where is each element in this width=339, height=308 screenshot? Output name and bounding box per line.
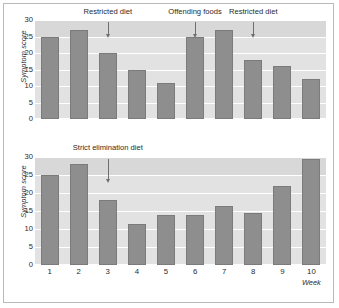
y-tick-label: 0 [29,261,33,269]
bar [244,213,262,265]
bar [244,60,262,119]
x-tick-label: 7 [222,267,226,276]
y-tick-label: 15 [25,66,33,74]
bar [302,159,320,265]
x-tick-label: 2 [76,267,80,276]
bar [157,83,175,119]
x-axis-label: Week [302,278,321,287]
annotation-arrow-icon [253,22,254,34]
y-tick-label: 30 [25,153,33,161]
annotation-label: Restricted diet [83,8,132,16]
bar [273,186,291,265]
annotation-arrow-icon [195,22,196,34]
bar [70,164,88,265]
bar [70,30,88,119]
annotation-arrow-icon [108,22,109,34]
y-tick-label: 0 [29,115,33,123]
bar [99,200,117,265]
plot-area-top [35,20,326,119]
gridline [35,20,326,21]
x-tick-label: 5 [164,267,168,276]
x-tick-label: 4 [135,267,139,276]
bar [186,215,204,265]
y-tick-label: 10 [25,225,33,233]
y-axis-ticks-top: 051015202530 [9,20,33,119]
chart-top: Symptom score 051015202530 Restricted di… [4,4,335,152]
bar [186,37,204,120]
bar [128,224,146,265]
bar [157,215,175,265]
bar [215,206,233,265]
gridline [35,157,326,158]
bar [215,30,233,119]
y-axis-ticks-bottom: 051015202530 [9,157,33,265]
bar [273,66,291,119]
annotation-label: Restricted diet [229,8,278,16]
annotation-label: Strict elimination diet [73,144,143,152]
y-tick-label: 5 [29,99,33,107]
bar [99,53,117,119]
annotation-arrow-icon [108,159,109,179]
bar [128,70,146,120]
y-tick-label: 15 [25,207,33,215]
figure-frame: Symptom score 051015202530 Restricted di… [3,3,334,303]
y-tick-label: 10 [25,82,33,90]
x-tick-label: 10 [307,267,316,276]
x-tick-label: 9 [280,267,284,276]
x-tick-label: 6 [193,267,197,276]
bar [41,175,59,265]
x-tick-label: 3 [106,267,110,276]
x-tick-label: 8 [251,267,255,276]
y-tick-label: 20 [25,49,33,57]
x-tick-label: 1 [47,267,51,276]
chart-bottom: Symptom score 051015202530 Strict elimin… [4,135,335,303]
y-tick-label: 25 [25,33,33,41]
y-tick-label: 25 [25,171,33,179]
y-tick-label: 5 [29,243,33,251]
annotation-label: Offending foods [168,8,221,16]
plot-area-bottom [35,157,326,265]
bar [302,79,320,119]
y-tick-label: 20 [25,189,33,197]
bar [41,37,59,120]
y-tick-label: 30 [25,16,33,24]
